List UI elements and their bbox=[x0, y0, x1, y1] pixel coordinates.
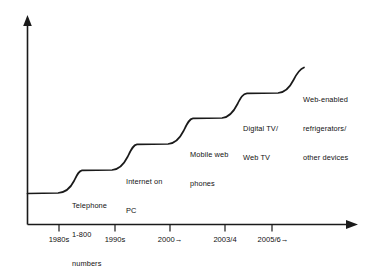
x-tick-label-2000: 2000→ bbox=[148, 235, 192, 244]
annotation-telephone-line3: numbers bbox=[72, 259, 107, 269]
annotation-mobile-web-phones-line1: Mobile web bbox=[190, 150, 228, 160]
annotation-telephone-line1: Telephone bbox=[72, 201, 107, 211]
annotation-internet-on-pc: Internet on PC bbox=[126, 157, 162, 235]
annotation-web-enabled-devices-line3: other devices bbox=[303, 153, 348, 163]
x-tick-label-1990s: 1990s bbox=[95, 235, 135, 244]
annotation-telephone: Telephone 1-800 numbers bbox=[72, 181, 107, 270]
y-axis-arrow-icon bbox=[23, 15, 32, 26]
x-tick-label-2003-4: 2003/4 bbox=[205, 235, 245, 244]
annotation-mobile-web-phones-line2: phones bbox=[190, 179, 228, 189]
x-tick-label-2005-6: 2005/6→ bbox=[249, 235, 297, 244]
annotation-internet-on-pc-line1: Internet on bbox=[126, 177, 162, 187]
annotation-web-enabled-devices-line1: Web-enabled bbox=[303, 95, 348, 105]
annotation-digital-tv-line2: Web TV bbox=[243, 153, 278, 163]
annotation-digital-tv-line1: Digital TV/ bbox=[243, 124, 278, 134]
annotation-mobile-web-phones: Mobile web phones bbox=[190, 130, 228, 208]
annotation-web-enabled-devices: Web-enabled refrigerators/ other devices bbox=[303, 75, 348, 183]
annotation-web-enabled-devices-line2: refrigerators/ bbox=[303, 124, 348, 134]
x-tick-label-1980s: 1980s bbox=[39, 235, 79, 244]
x-axis-arrow-icon bbox=[346, 220, 358, 229]
annotation-internet-on-pc-line2: PC bbox=[126, 206, 162, 216]
annotation-digital-tv: Digital TV/ Web TV bbox=[243, 104, 278, 182]
